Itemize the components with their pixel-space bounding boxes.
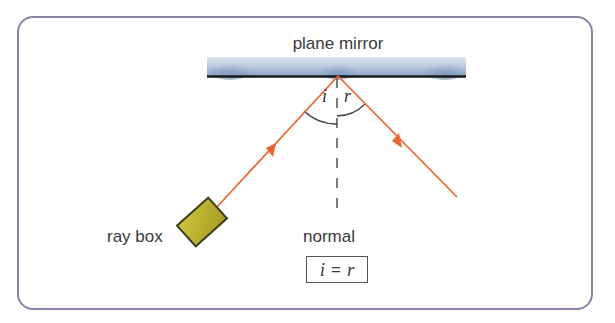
- law-left: i: [320, 259, 325, 281]
- angle-i-arc: [304, 111, 337, 124]
- normal-label: normal: [303, 227, 355, 247]
- mirror-label: plane mirror: [0, 34, 615, 54]
- law-of-reflection-box: i = r: [306, 256, 368, 283]
- arrow-icon: [266, 143, 276, 157]
- reflected-ray: [338, 76, 457, 197]
- law-right: r: [347, 259, 354, 281]
- law-operator: =: [331, 260, 341, 280]
- angle-r-label: r: [344, 86, 351, 107]
- angle-i-label: i: [322, 86, 327, 107]
- ray-box-label: ray box: [107, 227, 163, 247]
- incident-ray: [216, 76, 338, 208]
